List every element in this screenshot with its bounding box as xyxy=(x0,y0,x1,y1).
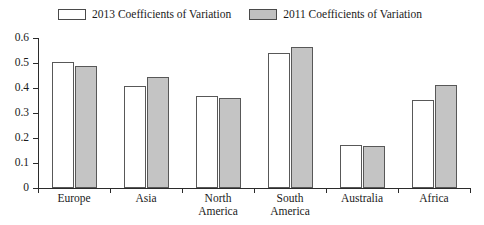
bar xyxy=(196,96,218,188)
plot-area: 00.10.20.30.40.50.6 EuropeAsiaNorth Amer… xyxy=(38,38,470,188)
bar xyxy=(75,66,97,188)
y-tick: 0.3 xyxy=(33,113,38,114)
category-label: Africa xyxy=(419,192,448,205)
y-tick-label: 0.5 xyxy=(15,56,29,69)
bar-chart: 2013 Coefficients of Variation 2011 Coef… xyxy=(0,0,484,225)
y-tick-label: 0 xyxy=(23,181,29,194)
category-label: North America xyxy=(198,192,238,217)
category-label: Asia xyxy=(135,192,156,205)
category-label: South America xyxy=(270,192,310,217)
legend-item-2011: 2011 Coefficients of Variation xyxy=(249,8,422,20)
bar xyxy=(291,47,313,188)
bar xyxy=(412,100,434,188)
bar xyxy=(147,77,169,188)
category-label: Australia xyxy=(341,192,383,205)
chart-legend: 2013 Coefficients of Variation 2011 Coef… xyxy=(58,8,422,20)
bar xyxy=(340,145,362,188)
x-tick xyxy=(254,188,255,193)
y-tick: 0.5 xyxy=(33,63,38,64)
legend-item-2013: 2013 Coefficients of Variation xyxy=(58,8,231,20)
y-tick-label: 0.1 xyxy=(15,156,29,169)
gray-square-icon xyxy=(249,9,277,20)
x-tick xyxy=(470,188,471,193)
x-tick xyxy=(38,188,39,193)
legend-label-2013: 2013 Coefficients of Variation xyxy=(92,8,231,20)
white-square-icon xyxy=(58,9,86,20)
y-tick-label: 0.2 xyxy=(15,131,29,144)
y-tick-label: 0.3 xyxy=(15,106,29,119)
y-tick-label: 0.4 xyxy=(15,81,29,94)
x-tick xyxy=(110,188,111,193)
x-tick xyxy=(398,188,399,193)
bar xyxy=(219,98,241,188)
bar xyxy=(268,53,290,188)
bar xyxy=(363,146,385,188)
y-axis xyxy=(38,38,39,189)
bar xyxy=(52,62,74,188)
y-tick: 0.6 xyxy=(33,38,38,39)
x-tick xyxy=(182,188,183,193)
legend-label-2011: 2011 Coefficients of Variation xyxy=(283,8,422,20)
x-tick xyxy=(326,188,327,193)
category-label: Europe xyxy=(57,192,90,205)
y-tick: 0.1 xyxy=(33,163,38,164)
bar xyxy=(435,85,457,188)
y-tick: 0.2 xyxy=(33,138,38,139)
y-tick: 0.4 xyxy=(33,88,38,89)
y-tick-label: 0.6 xyxy=(15,31,29,44)
bar xyxy=(124,86,146,188)
